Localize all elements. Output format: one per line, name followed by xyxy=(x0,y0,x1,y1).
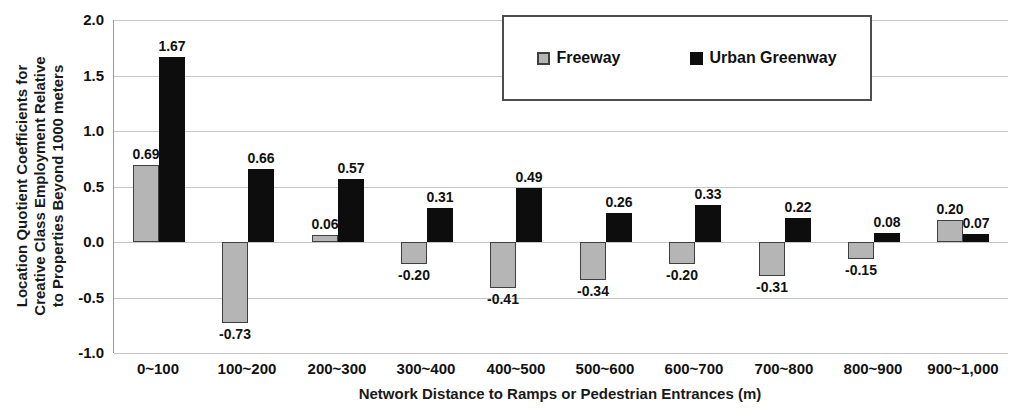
legend-label-urban-greenway: Urban Greenway xyxy=(709,49,836,67)
x-tick-label: 100~200 xyxy=(202,360,292,377)
value-label: -0.15 xyxy=(833,262,889,278)
value-label: -0.41 xyxy=(475,291,531,307)
chart-figure: Location Quotient Coefficients for Creat… xyxy=(0,0,1017,418)
x-tick-label: 300~400 xyxy=(381,360,471,377)
y-axis-title-line-1: Location Quotient Coefficients for xyxy=(13,6,31,366)
legend: Freeway Urban Greenway xyxy=(502,15,872,101)
value-label: 0.07 xyxy=(948,215,1004,231)
value-label: 0.08 xyxy=(859,214,915,230)
bar-urban-greenway-900~1,000 xyxy=(963,234,989,242)
value-label: -0.20 xyxy=(654,267,710,283)
bar-freeway-500~600 xyxy=(580,242,606,280)
value-label: -0.73 xyxy=(207,326,263,342)
x-tick-label: 700~800 xyxy=(739,360,829,377)
bar-urban-greenway-800~900 xyxy=(874,233,900,242)
x-tick-label: 800~900 xyxy=(828,360,918,377)
y-tick-label: 0.5 xyxy=(52,178,104,195)
freeway-swatch-icon xyxy=(537,52,550,65)
x-tick-label: 0~100 xyxy=(113,360,203,377)
y-axis-title-line-2: Creative Class Employment Relative xyxy=(31,6,49,366)
gridline-1.0 xyxy=(114,131,1008,132)
legend-item-freeway: Freeway xyxy=(537,49,620,67)
bar-urban-greenway-300~400 xyxy=(427,208,453,242)
x-tick-label: 500~600 xyxy=(560,360,650,377)
bar-freeway-0~100 xyxy=(133,165,159,242)
bar-freeway-700~800 xyxy=(759,242,785,276)
bar-urban-greenway-600~700 xyxy=(695,205,721,242)
value-label: 0.33 xyxy=(680,186,736,202)
value-label: 0.49 xyxy=(501,169,557,185)
urban-greenway-swatch-icon xyxy=(690,52,703,65)
bar-urban-greenway-700~800 xyxy=(785,218,811,242)
x-tick-label: 400~500 xyxy=(471,360,561,377)
legend-label-freeway: Freeway xyxy=(556,49,620,67)
bar-urban-greenway-0~100 xyxy=(159,57,185,242)
gridline--1.0 xyxy=(114,353,1008,354)
x-axis-title: Network Distance to Ramps or Pedestrian … xyxy=(113,385,1007,402)
gridline--0.5 xyxy=(114,298,1008,299)
value-label: -0.34 xyxy=(565,283,621,299)
y-tick-label: 0.0 xyxy=(52,233,104,250)
bar-urban-greenway-100~200 xyxy=(248,169,274,242)
bar-freeway-200~300 xyxy=(312,235,338,242)
value-label: 0.57 xyxy=(323,160,379,176)
value-label: -0.20 xyxy=(386,267,442,283)
bar-freeway-800~900 xyxy=(848,242,874,259)
x-tick-label: 900~1,000 xyxy=(918,360,1008,377)
value-label: 1.67 xyxy=(144,38,200,54)
bar-urban-greenway-400~500 xyxy=(516,188,542,242)
bar-freeway-600~700 xyxy=(669,242,695,264)
value-label: 0.31 xyxy=(412,189,468,205)
legend-item-urban-greenway: Urban Greenway xyxy=(690,49,836,67)
y-tick-label: 1.0 xyxy=(52,122,104,139)
value-label: 0.26 xyxy=(591,194,647,210)
value-label: 0.22 xyxy=(770,199,826,215)
bar-urban-greenway-200~300 xyxy=(338,179,364,242)
y-tick-label: -0.5 xyxy=(52,289,104,306)
x-tick-label: 200~300 xyxy=(292,360,382,377)
bar-freeway-100~200 xyxy=(222,242,248,323)
bar-urban-greenway-500~600 xyxy=(606,213,632,242)
bar-freeway-400~500 xyxy=(490,242,516,288)
value-label: 0.66 xyxy=(233,150,289,166)
value-label: -0.31 xyxy=(744,279,800,295)
y-tick-label: 2.0 xyxy=(52,11,104,28)
y-tick-label: -1.0 xyxy=(52,344,104,361)
y-tick-label: 1.5 xyxy=(52,67,104,84)
x-tick-label: 600~700 xyxy=(649,360,739,377)
bar-freeway-300~400 xyxy=(401,242,427,264)
